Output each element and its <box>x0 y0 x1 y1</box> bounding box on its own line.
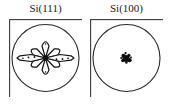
cluster-lobe-sw <box>121 59 124 62</box>
lobe-dot-r1 <box>56 58 58 60</box>
cluster-lobe-ne <box>127 54 130 57</box>
center-dot <box>43 55 48 60</box>
panel-si111-title: Si(111) <box>9 2 82 15</box>
cluster-satellite-w <box>120 57 122 59</box>
lobe-dot-l3 <box>22 57 24 59</box>
lobe-dot-r3 <box>67 58 69 60</box>
pole-figure-si111 <box>9 19 82 97</box>
cluster-lobe-nw <box>121 54 125 58</box>
petal-tip-dot-s <box>45 71 47 73</box>
lobe-dot-l1 <box>34 56 36 58</box>
pole-figure-comparison: Si(111) <box>0 0 171 104</box>
cluster-satellite-e <box>130 57 132 59</box>
panel-si100-title: Si(100) <box>90 2 163 15</box>
lobe-dot-l2 <box>28 57 30 59</box>
panel-si100: Si(100) <box>90 19 163 97</box>
pole-figure-si100 <box>90 19 163 97</box>
cluster-lobe-se <box>128 58 132 62</box>
cluster-satellite-s <box>125 61 127 63</box>
cluster-satellite-n <box>125 52 127 54</box>
panel-si111: Si(111) <box>9 19 82 97</box>
petal-tip-dot-n <box>45 43 47 45</box>
lobe-dot-r2 <box>62 58 64 60</box>
